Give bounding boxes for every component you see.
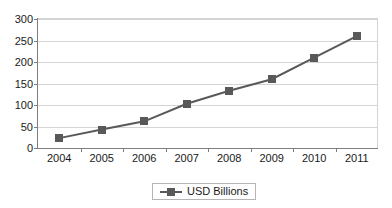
legend-marker-icon (160, 187, 182, 196)
x-axis-tick-mark (251, 148, 252, 152)
plot-right-border (377, 18, 378, 149)
x-axis-tick-label: 2010 (293, 152, 335, 164)
data-point-marker (183, 100, 191, 108)
plot-top-border (38, 18, 378, 19)
data-point-marker (55, 134, 63, 142)
gridline (38, 62, 378, 63)
y-axis-tick-label: 50 (0, 122, 33, 133)
y-axis-tick-mark (34, 62, 38, 63)
x-axis-tick-label: 2007 (166, 152, 208, 164)
x-axis-tick-mark (166, 148, 167, 152)
data-point-marker (98, 126, 106, 134)
y-axis-tick-label: 250 (0, 36, 33, 47)
y-axis-tick-mark (34, 127, 38, 128)
gridline (38, 127, 378, 128)
y-axis-tick-label: 100 (0, 100, 33, 111)
x-axis-tick-mark (123, 148, 124, 152)
data-point-marker (225, 87, 233, 95)
chart-legend: USD Billions (152, 183, 256, 200)
y-axis-tick-mark (34, 84, 38, 85)
y-axis-tick-label: 150 (0, 79, 33, 90)
legend-label: USD Billions (187, 186, 248, 197)
line-chart: 050100150200250300 200420052006200720082… (0, 0, 392, 208)
x-axis-tick-mark (208, 148, 209, 152)
x-axis-tick-label: 2004 (38, 152, 80, 164)
gridline (38, 105, 378, 106)
y-axis-tick-mark (34, 148, 38, 149)
y-axis-tick-mark (34, 105, 38, 106)
gridline (38, 19, 378, 20)
data-point-marker (140, 117, 148, 125)
y-axis-tick-label: 200 (0, 57, 33, 68)
x-axis-tick-label: 2005 (81, 152, 123, 164)
y-axis-tick-mark (34, 19, 38, 20)
x-axis-tick-mark (293, 148, 294, 152)
gridline (38, 84, 378, 85)
data-point-marker (268, 75, 276, 83)
x-axis-tick-label: 2009 (251, 152, 293, 164)
data-point-marker (310, 54, 318, 62)
gridline (38, 41, 378, 42)
data-point-marker (353, 32, 361, 40)
x-axis-tick-label: 2011 (336, 152, 378, 164)
x-axis-tick-mark (81, 148, 82, 152)
x-axis-tick-label: 2008 (208, 152, 250, 164)
y-axis-tick-label: 0 (0, 143, 33, 154)
y-axis-tick-mark (34, 41, 38, 42)
x-axis-tick-label: 2006 (123, 152, 165, 164)
y-axis-tick-label: 300 (0, 14, 33, 25)
x-axis-tick-mark (336, 148, 337, 152)
